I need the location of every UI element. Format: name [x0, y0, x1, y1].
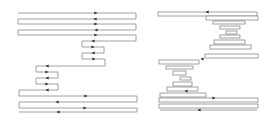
direction-arrow-icon: [94, 22, 97, 25]
direction-arrow-icon: [56, 110, 59, 113]
direction-arrow-icon: [91, 39, 94, 42]
direction-arrow-icon: [92, 57, 95, 60]
diagram-figure: [0, 0, 274, 127]
direction-arrow-icon: [55, 100, 58, 103]
direction-arrow-icon: [45, 64, 48, 67]
contour-rectangle: [159, 60, 199, 64]
left-panel-serpentine-path: [18, 11, 137, 113]
serpentine-path: [18, 13, 137, 112]
direction-arrow-icon: [200, 57, 203, 60]
right-panel-stacked-rectangles: [158, 10, 258, 111]
diagram-canvas: [0, 0, 274, 127]
direction-arrow-icon: [94, 28, 97, 31]
contour-rectangle: [213, 21, 245, 24]
contour-rectangle: [173, 71, 186, 75]
direction-arrow-icon: [45, 88, 48, 91]
direction-arrow-icon: [197, 108, 200, 111]
contour-rectangle: [159, 104, 258, 108]
contour-rectangle: [166, 66, 193, 69]
direction-arrow-icon: [45, 76, 48, 79]
direction-arrow-icon: [84, 94, 87, 97]
direction-arrow-icon: [91, 51, 94, 54]
contour-rectangle: [159, 98, 258, 102]
contour-rectangle: [173, 82, 192, 86]
contour-rectangle: [180, 77, 191, 80]
contour-rectangle: [205, 54, 258, 58]
direction-arrow-icon: [45, 82, 48, 85]
contour-rectangle: [206, 16, 258, 20]
direction-arrow-icon: [94, 33, 97, 36]
contour-rectangle: [214, 40, 245, 44]
contour-rectangle: [220, 26, 240, 29]
contour-rectangle: [220, 35, 240, 38]
direction-arrow-icon: [94, 11, 97, 14]
contour-rectangle: [167, 87, 198, 91]
contour-rectangle: [210, 45, 251, 49]
direction-arrow-icon: [91, 45, 94, 48]
direction-arrow-icon: [83, 106, 86, 109]
direction-arrow-icon: [45, 70, 48, 73]
direction-arrow-icon: [93, 17, 96, 20]
contour-rectangle: [226, 31, 237, 34]
contour-rectangle: [160, 93, 206, 97]
